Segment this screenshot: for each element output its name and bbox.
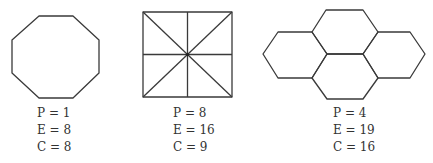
edges-count-label: E = 19	[333, 122, 375, 139]
octagon-figure	[12, 16, 99, 98]
hexagon-cluster-stats: P = 4 E = 19 C = 16	[333, 105, 375, 156]
paths-count-label: P = 1	[37, 105, 72, 122]
corners-count-label: C = 16	[333, 139, 375, 156]
hexagon-cluster-figure	[263, 10, 425, 99]
hexagon-bottom	[312, 54, 378, 99]
corners-count-label: C = 9	[173, 139, 215, 156]
paths-count-label: P = 4	[333, 105, 375, 122]
paths-count-label: P = 8	[173, 105, 215, 122]
octagon-shape	[12, 16, 99, 98]
octagon-stats: P = 1 E = 8 C = 8	[37, 105, 72, 156]
edges-count-label: E = 16	[173, 122, 215, 139]
corners-count-label: C = 8	[37, 139, 72, 156]
edges-count-label: E = 8	[37, 122, 72, 139]
center-point	[186, 53, 189, 56]
hexagon-left	[263, 32, 327, 78]
square-stats: P = 8 E = 16 C = 9	[173, 105, 215, 156]
subdivided-square-figure	[143, 12, 232, 97]
hexagon-right	[363, 32, 425, 78]
